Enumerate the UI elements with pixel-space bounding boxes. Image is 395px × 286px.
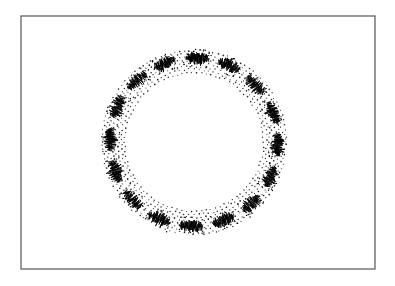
tuft-dot: [159, 71, 160, 72]
stipple-dot: [119, 132, 121, 134]
stipple-dot: [206, 74, 207, 75]
stipple-dot: [262, 156, 263, 157]
tuft-dot: [169, 64, 170, 65]
stipple-dot: [249, 94, 250, 95]
stipple-dot: [146, 193, 147, 194]
stipple-dot: [151, 66, 153, 68]
tuft-dot: [269, 127, 270, 128]
tuft-dot: [146, 79, 147, 80]
tuft-dot: [132, 199, 133, 200]
stipple-dot: [167, 70, 168, 71]
stipple-dot: [110, 120, 111, 121]
stipple-dot: [228, 202, 229, 203]
tuft-dot: [225, 212, 226, 213]
tuft-dot: [282, 114, 283, 115]
stipple-dot: [252, 105, 253, 106]
tuft-dot: [262, 94, 263, 95]
stipple-dot: [237, 87, 238, 88]
stipple-dot: [278, 171, 279, 172]
stipple-dot: [264, 107, 265, 108]
tuft-dot: [115, 169, 116, 170]
ring-figure: [0, 0, 395, 286]
stipple-dot: [106, 167, 108, 169]
stipple-dot: [165, 229, 166, 230]
stipple-dot: [108, 177, 109, 178]
stipple-dot: [123, 170, 124, 171]
stipple-dot: [264, 100, 265, 101]
stipple-dot: [235, 209, 236, 210]
stipple-dot: [268, 167, 269, 168]
stipple-dot: [248, 89, 250, 91]
stipple-dot: [126, 90, 127, 91]
stipple-dot: [142, 86, 143, 87]
tuft-dot: [253, 82, 254, 83]
stipple-dot: [186, 229, 187, 230]
tuft-dot: [233, 69, 234, 70]
tuft-dot: [229, 65, 230, 66]
tuft-dot: [148, 79, 149, 80]
stipple-dot: [268, 88, 270, 90]
stipple-dot: [240, 62, 242, 64]
stipple-dot: [234, 215, 236, 217]
stipple-dot: [226, 206, 228, 208]
stipple-dot: [187, 61, 188, 62]
tuft-dot: [161, 224, 162, 225]
stipple-dot: [270, 125, 271, 126]
stipple-dot: [118, 127, 119, 128]
stipple-dot: [139, 88, 140, 89]
tuft-dot: [183, 62, 184, 63]
stipple-dot: [238, 211, 239, 212]
stipple-dot: [133, 96, 134, 97]
stipple-dot: [181, 66, 182, 67]
stipple-dot: [244, 64, 246, 66]
stipple-dot: [122, 91, 123, 92]
stipple-dot: [177, 75, 178, 76]
tuft-dot: [159, 73, 160, 74]
stipple-dot: [133, 109, 134, 110]
stipple-dot: [268, 142, 270, 144]
stipple-dot: [154, 84, 156, 86]
stipple-dot: [137, 101, 139, 103]
stipple-dot: [263, 163, 264, 164]
stipple-dot: [125, 108, 126, 109]
stipple-dot: [257, 79, 258, 80]
stipple-dot: [212, 230, 213, 231]
stipple-dot: [217, 216, 218, 217]
stipple-dot: [119, 142, 120, 143]
stipple-dot: [261, 127, 262, 128]
tuft-dot: [259, 198, 260, 199]
stipple-dot: [146, 202, 147, 203]
stipple-dot: [274, 185, 276, 187]
tuft-dot: [168, 216, 169, 217]
tuft-dot: [107, 107, 108, 108]
stipple-dot: [271, 99, 272, 100]
stipple-dot: [209, 68, 210, 69]
stipple-dot: [130, 176, 131, 177]
stipple-dot: [213, 212, 214, 213]
tuft-dot: [234, 221, 235, 222]
stipple-dot: [199, 69, 200, 70]
stipple-dot: [278, 125, 279, 126]
tuft-dot: [276, 147, 277, 148]
stipple-dot: [266, 85, 267, 86]
tuft-dot: [105, 137, 106, 138]
stipple-dot: [121, 134, 122, 135]
stipple-dot: [122, 154, 124, 156]
tuft-dot: [205, 50, 206, 51]
tuft-dot: [123, 103, 124, 104]
stipple-dot: [237, 219, 239, 221]
stipple-dot: [144, 80, 146, 82]
tuft-dot: [191, 217, 192, 218]
stipple-dot: [184, 57, 185, 58]
stipple-dot: [280, 116, 281, 117]
stipple-dot: [273, 160, 275, 162]
tuft-dot: [249, 216, 250, 217]
stipple-dot: [158, 202, 159, 203]
tuft-dot: [228, 219, 229, 220]
tuft-dot: [182, 223, 183, 224]
stipple-dot: [226, 227, 228, 229]
tuft-dot: [233, 75, 234, 76]
stipple-dot: [266, 129, 267, 130]
stipple-dot: [125, 181, 126, 182]
stipple-dot: [186, 65, 187, 66]
